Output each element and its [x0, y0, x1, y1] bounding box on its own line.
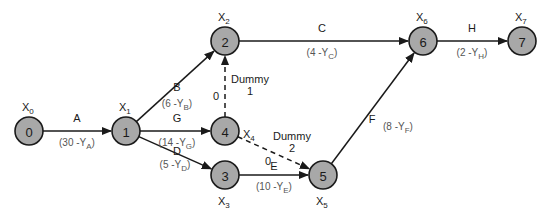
edge-label-number: 2	[289, 142, 295, 154]
edge-duration: 0	[213, 90, 219, 102]
node-time-variable: X2	[218, 11, 230, 26]
node-time-variable: X5	[316, 195, 328, 210]
edge-label: D	[173, 145, 181, 157]
edge-duration: (4 -YC)	[307, 47, 338, 61]
node-number: 6	[419, 35, 426, 50]
node-number: 7	[518, 35, 525, 50]
edge-label: Dummy	[273, 130, 311, 142]
node-time-variable: X4	[243, 128, 255, 143]
node-2: 2	[211, 27, 239, 55]
node-time-variable: X6	[416, 11, 428, 26]
edge-label: E	[270, 160, 277, 172]
node-number: 1	[122, 125, 129, 140]
node-4: 4	[211, 117, 239, 145]
node-0: 0	[15, 117, 43, 145]
node-7: 7	[508, 27, 536, 55]
edge-duration: (5 -YD)	[160, 159, 191, 173]
edge-duration: (30 -YA)	[59, 137, 95, 151]
node-number: 3	[221, 169, 228, 184]
edge-label: B	[173, 81, 180, 93]
edge-duration: (2 -YH)	[457, 47, 488, 61]
node-time-variable: X7	[515, 11, 527, 26]
edge-label: G	[173, 112, 182, 124]
edge-label: C	[318, 22, 326, 34]
node-number: 0	[25, 125, 32, 140]
network-diagram: 01234567 A(30 -YA)B(6 -YB)G(14 -YG)D(5 -…	[0, 0, 553, 218]
edge-f	[331, 53, 414, 164]
edge-label-number: 1	[247, 85, 253, 97]
node-number: 2	[221, 35, 228, 50]
node-number: 5	[319, 169, 326, 184]
node-number: 4	[221, 125, 228, 140]
node-5: 5	[309, 161, 337, 189]
edge-label: H	[468, 22, 476, 34]
edge-label: Dummy	[231, 73, 269, 85]
edge-duration: (10 -YE)	[256, 181, 292, 195]
node-6: 6	[409, 27, 437, 55]
edge-label: F	[369, 113, 376, 125]
node-time-variable: X1	[119, 101, 131, 116]
node-3: 3	[211, 161, 239, 189]
diagram-svg: 01234567 A(30 -YA)B(6 -YB)G(14 -YG)D(5 -…	[0, 0, 553, 218]
node-time-variable: X3	[218, 195, 230, 210]
node-1: 1	[112, 117, 140, 145]
edge-label: A	[73, 112, 81, 124]
node-time-variable: X0	[22, 101, 34, 116]
edges-layer	[43, 41, 507, 175]
edge-duration: (6 -YB)	[162, 98, 192, 112]
edge-duration: (8 -YF)	[383, 121, 413, 135]
